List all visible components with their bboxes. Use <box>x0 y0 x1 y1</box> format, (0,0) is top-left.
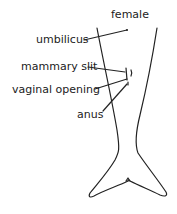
label-mammary-slit: mammary slit <box>21 61 97 73</box>
label-vaginal-opening: vaginal opening <box>12 84 100 96</box>
mammary-slit-mark-2 <box>131 70 132 76</box>
title-female: female <box>111 9 149 21</box>
label-umbilicus: umbilicus <box>36 34 89 46</box>
diagram: female umbilicus mammary slit vaginal op… <box>0 0 177 214</box>
body-outline-right <box>128 28 167 196</box>
label-anus: anus <box>77 109 103 121</box>
mammary-slit-mark <box>126 68 127 80</box>
